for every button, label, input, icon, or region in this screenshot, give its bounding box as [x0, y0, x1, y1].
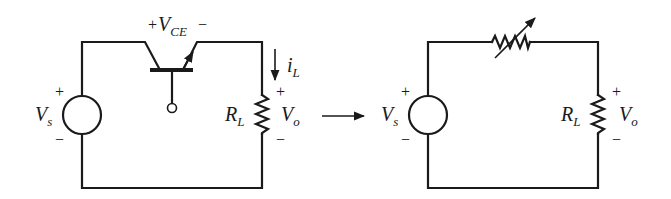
output-plus-sign: + — [612, 83, 621, 100]
load-label: RL — [224, 103, 244, 129]
circuit-diagram: + VCE − + Vs − iL RL + Vo − — [0, 0, 671, 199]
source-minus-sign: − — [401, 131, 410, 148]
variable-arrow-icon — [495, 18, 535, 58]
voltage-source-icon — [409, 96, 447, 134]
base-terminal-icon — [168, 104, 177, 113]
right-wire-top-left — [428, 42, 492, 96]
source-label: Vs — [35, 103, 52, 129]
source-plus-sign: + — [55, 83, 64, 100]
output-minus-sign: − — [612, 131, 621, 148]
output-label: Vo — [281, 103, 300, 129]
right-wire-bottom — [428, 134, 598, 188]
transistor-emitter-arrow-icon — [183, 52, 193, 69]
source-minus-sign: − — [55, 131, 64, 148]
vce-label: VCE — [158, 13, 187, 39]
voltage-source-icon — [63, 96, 101, 134]
source-plus-sign: + — [401, 83, 410, 100]
left-circuit: + VCE − + Vs − iL RL + Vo − — [35, 13, 300, 188]
vce-minus-sign: − — [198, 16, 207, 33]
left-wire-top-left — [82, 42, 160, 96]
left-wire-top-right — [183, 42, 262, 95]
right-wire-top-right — [530, 42, 598, 95]
load-label: RL — [560, 103, 580, 129]
output-plus-sign: + — [276, 83, 285, 100]
vce-plus-sign: + — [148, 16, 157, 33]
load-resistor-icon — [256, 95, 268, 134]
source-label: Vs — [381, 103, 398, 129]
output-label: Vo — [619, 103, 638, 129]
load-resistor-icon — [592, 95, 604, 134]
output-minus-sign: − — [276, 131, 285, 148]
right-circuit: + Vs − RL + Vo − — [381, 18, 638, 188]
left-wire-bottom — [82, 134, 262, 188]
current-label: iL — [287, 54, 300, 80]
